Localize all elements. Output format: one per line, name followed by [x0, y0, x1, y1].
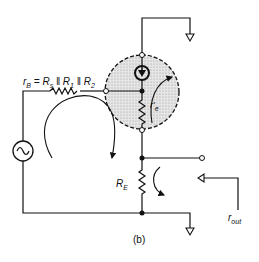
base-node: [104, 89, 109, 94]
emitter-resistor-re: [139, 158, 145, 213]
collector-wire: [142, 18, 190, 55]
emitter-node: [140, 156, 145, 161]
re-prime-label: r′e: [150, 100, 159, 112]
ground-icon: [186, 228, 194, 235]
base-loop-arrow-icon: [44, 96, 114, 158]
rout-lead: [204, 178, 238, 210]
collector-node: [140, 53, 145, 58]
re-label: RE: [116, 178, 128, 191]
base-wire-left: [23, 91, 50, 141]
rb-equation-label: rB = Rs ‖ R1 ‖ R2: [23, 76, 95, 89]
ground-icon: [186, 34, 194, 41]
rout-label: rout: [228, 212, 241, 225]
circuit-diagram: [0, 0, 259, 262]
ground-node: [140, 211, 145, 216]
emitter-inner-node: [140, 128, 145, 133]
output-terminal: [200, 156, 205, 161]
ground-wire: [23, 161, 190, 228]
figure-caption: (b): [133, 234, 145, 245]
emitter-loop-arrow-icon: [154, 167, 164, 195]
rout-arrow-icon: [198, 174, 204, 182]
internal-node: [140, 89, 145, 94]
